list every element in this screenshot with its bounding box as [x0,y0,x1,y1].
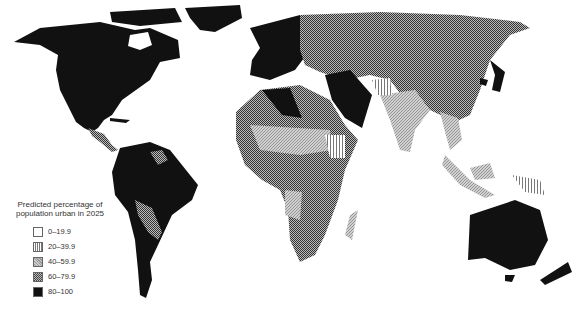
region-arctic-islands [110,8,182,26]
swatch-dark-checker-icon [33,272,43,282]
swatch-black-icon [33,287,43,297]
legend-item-1: 20–39.9 [33,239,115,254]
region-japan [490,60,505,92]
region-australia [468,200,548,270]
swatch-vertical-stripes-icon [33,242,43,252]
legend-item-2: 40–59.9 [33,254,115,269]
legend-item-4: 80–100 [33,284,115,299]
region-central-america [88,128,118,152]
legend-item-3: 60–79.9 [33,269,115,284]
legend-item-0: 0–19.9 [33,224,115,239]
legend-title: Predicted percentage of population urban… [5,200,115,218]
region-afghanistan [372,78,392,95]
map-legend: Predicted percentage of population urban… [5,200,115,299]
swatch-white-icon [33,227,43,237]
region-angola [285,190,302,220]
region-madagascar [345,210,358,240]
region-new-zealand [540,262,572,285]
region-north-america [14,22,180,132]
region-png [512,175,545,195]
swatch-light-diagonal-icon [33,257,43,267]
region-greenland [185,5,242,32]
